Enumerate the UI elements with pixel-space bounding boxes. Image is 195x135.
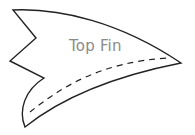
top-fin-template: Top Fin	[0, 0, 195, 135]
fin-label: Top Fin	[69, 37, 122, 55]
fin-shape-drawing	[0, 0, 195, 135]
fin-outline	[10, 10, 181, 127]
